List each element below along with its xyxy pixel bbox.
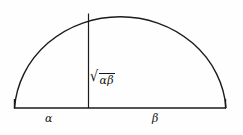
radical-sign-icon: √ — [90, 70, 98, 84]
diagram-canvas — [0, 0, 243, 135]
geometric-mean-diagram: √ αβ α β — [0, 0, 243, 135]
semicircle-arc — [15, 17, 227, 108]
radicand-label: αβ — [99, 73, 115, 86]
right-segment-label: β — [152, 113, 158, 124]
altitude-label: √ αβ — [90, 71, 115, 86]
left-segment-label: α — [45, 113, 52, 124]
